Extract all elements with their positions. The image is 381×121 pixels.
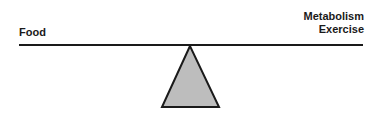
fulcrum-triangle [162,46,219,107]
food-label: Food [19,26,46,39]
right-side-labels: Metabolism Exercise [303,10,364,36]
exercise-label: Exercise [303,23,364,36]
metabolism-label: Metabolism [303,10,364,23]
